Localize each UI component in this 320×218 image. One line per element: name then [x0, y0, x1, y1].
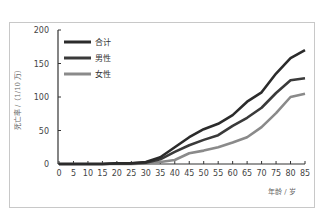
y-axis: 050100150200: [34, 26, 61, 169]
x-tick-label: 30: [141, 169, 151, 178]
x-tick-label: 55: [213, 169, 223, 178]
y-axis-title: 死亡率 /（1/10 万）: [13, 66, 22, 131]
x-tick-label: 0: [56, 169, 61, 178]
y-tick-label: 50: [39, 127, 49, 136]
x-tick-label: 70: [256, 169, 266, 178]
y-tick-label: 200: [34, 26, 49, 35]
x-tick-label: 5: [71, 169, 76, 178]
chart-lines: [59, 50, 305, 164]
series-line-2: [59, 94, 305, 164]
x-tick-label: 20: [112, 169, 122, 178]
legend-label: 合计: [95, 37, 111, 47]
x-tick-label: 10: [83, 169, 93, 178]
x-tick-label: 50: [199, 169, 209, 178]
legend-label: 女性: [95, 69, 111, 79]
legend: 合计男性女性: [64, 37, 111, 79]
y-tick-label: 0: [44, 160, 49, 169]
line-chart: 050100150200 051015202530354045505560657…: [0, 0, 320, 218]
x-tick-label: 25: [126, 169, 136, 178]
x-tick-label: 35: [155, 169, 165, 178]
x-tick-label: 80: [285, 169, 295, 178]
series-line-0: [59, 50, 305, 164]
x-tick-label: 40: [170, 169, 180, 178]
y-tick-label: 150: [34, 60, 49, 69]
x-tick-label: 45: [184, 169, 194, 178]
y-tick-label: 100: [34, 93, 49, 102]
x-tick-label: 85: [300, 169, 310, 178]
x-tick-label: 15: [97, 169, 107, 178]
x-tick-label: 65: [242, 169, 252, 178]
x-tick-label: 60: [228, 169, 238, 178]
x-axis-title: 年龄 / 岁: [268, 187, 296, 196]
x-tick-label: 75: [271, 169, 281, 178]
legend-label: 男性: [95, 53, 111, 63]
